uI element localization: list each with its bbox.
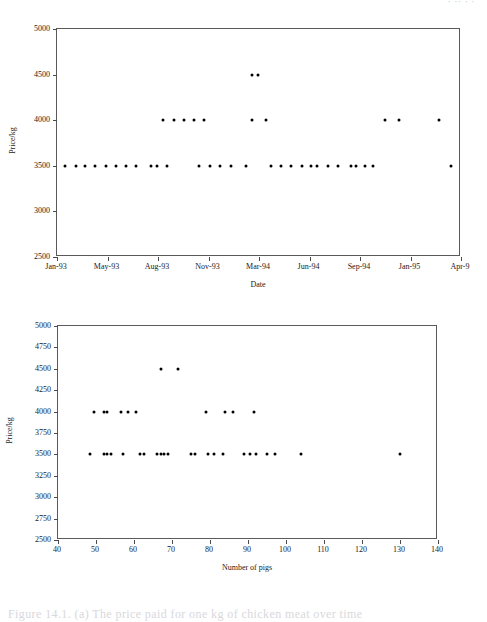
data-point — [383, 119, 386, 122]
data-point — [310, 164, 313, 167]
y-axis-tick — [54, 454, 58, 455]
data-point — [266, 453, 269, 456]
plot-area-price-vs-pigs — [57, 325, 437, 539]
y-axis-tick — [54, 390, 58, 391]
x-axis-tick — [360, 257, 361, 261]
x-axis-tick — [438, 540, 439, 544]
data-point — [244, 164, 247, 167]
data-point — [316, 164, 319, 167]
y-axis-tick-label: 3500 — [27, 449, 51, 458]
x-axis-title-top: Date — [218, 280, 298, 289]
data-point — [198, 164, 201, 167]
x-axis-tick — [57, 257, 58, 261]
x-axis-tick-label: 60 — [129, 545, 137, 554]
data-point — [155, 453, 158, 456]
data-point — [115, 164, 118, 167]
x-axis-tick-label: 50 — [91, 545, 99, 554]
data-point — [84, 164, 87, 167]
data-point — [250, 119, 253, 122]
y-axis-tick-label: 4750 — [27, 342, 51, 351]
data-point — [254, 453, 257, 456]
data-point — [397, 119, 400, 122]
x-axis-tick-label: Jan-95 — [399, 262, 420, 271]
data-point — [438, 119, 441, 122]
data-point — [138, 453, 141, 456]
data-point — [183, 119, 186, 122]
data-point — [207, 453, 210, 456]
y-axis-tick — [53, 75, 57, 76]
figure-price-vs-date: Price/kg Date 250030003500400045005000Ja… — [0, 0, 487, 310]
x-axis-tick — [172, 540, 173, 544]
y-axis-title-bottom: Price/kg — [5, 409, 14, 453]
y-axis-tick-label: 4000 — [26, 115, 50, 124]
y-axis-tick — [54, 497, 58, 498]
data-point — [252, 410, 255, 413]
x-axis-tick — [210, 540, 211, 544]
data-point — [163, 453, 166, 456]
y-axis-tick-label: 3000 — [26, 206, 50, 215]
x-axis-tick-label: Jun-94 — [298, 262, 320, 271]
data-point — [64, 164, 67, 167]
data-point — [264, 119, 267, 122]
x-axis-tick-label: 100 — [279, 545, 291, 554]
x-axis-tick — [411, 257, 412, 261]
x-axis-tick — [400, 540, 401, 544]
data-point — [212, 453, 215, 456]
y-axis-tick-label: 3500 — [26, 160, 50, 169]
data-point — [159, 453, 162, 456]
x-axis-tick-label: 90 — [243, 545, 251, 554]
data-point — [203, 119, 206, 122]
data-point — [190, 453, 193, 456]
data-point — [104, 164, 107, 167]
x-axis-tick-label: 80 — [205, 545, 213, 554]
data-point — [150, 164, 153, 167]
data-point — [222, 453, 225, 456]
y-axis-tick-label: 4250 — [27, 385, 51, 394]
data-point — [229, 164, 232, 167]
data-point — [224, 410, 227, 413]
x-axis-tick-label: 70 — [167, 545, 175, 554]
data-point — [208, 164, 211, 167]
data-point — [119, 410, 122, 413]
data-point — [165, 164, 168, 167]
x-axis-tick — [209, 257, 210, 261]
data-point — [110, 453, 113, 456]
data-point — [102, 410, 105, 413]
x-axis-tick — [259, 257, 260, 261]
data-point — [142, 453, 145, 456]
y-axis-tick-label: 3000 — [27, 492, 51, 501]
x-axis-tick-label: Jan-93 — [45, 262, 66, 271]
data-point — [251, 73, 254, 76]
data-point — [89, 453, 92, 456]
y-axis-tick-label: 2750 — [27, 513, 51, 522]
x-axis-tick-label: Aug-93 — [145, 262, 169, 271]
data-point — [300, 164, 303, 167]
y-axis-tick — [54, 369, 58, 370]
y-axis-tick — [53, 166, 57, 167]
y-axis-tick-label: 4000 — [27, 406, 51, 415]
x-axis-tick-label: May-93 — [94, 262, 119, 271]
data-point — [172, 119, 175, 122]
y-axis-tick — [53, 211, 57, 212]
data-point — [205, 410, 208, 413]
y-axis-tick-label: 5000 — [27, 321, 51, 330]
data-point — [364, 164, 367, 167]
data-point — [167, 453, 170, 456]
plot-area-price-vs-date — [56, 28, 460, 256]
y-axis-title-top: Price/kg — [8, 119, 17, 163]
y-axis-tick — [54, 326, 58, 327]
data-point — [219, 164, 222, 167]
x-axis-tick — [108, 257, 109, 261]
y-axis-tick — [54, 412, 58, 413]
data-point — [176, 367, 179, 370]
y-axis-tick-label: 2500 — [26, 252, 50, 261]
y-axis-tick — [54, 347, 58, 348]
y-axis-tick — [54, 519, 58, 520]
data-point — [124, 164, 127, 167]
x-axis-tick — [362, 540, 363, 544]
x-axis-tick-label: 130 — [393, 545, 405, 554]
data-point — [231, 410, 234, 413]
data-point — [102, 453, 105, 456]
data-point — [300, 453, 303, 456]
